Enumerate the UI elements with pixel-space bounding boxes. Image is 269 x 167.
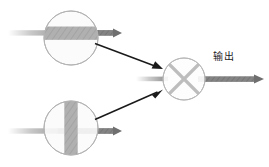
horizontal-polarizer bbox=[40, 11, 102, 65]
diagram-canvas: 输出 bbox=[0, 0, 269, 167]
bottom-to-combiner-link bbox=[95, 90, 163, 120]
vertical-polarizer bbox=[44, 97, 98, 159]
beam-combiner bbox=[163, 58, 205, 100]
top-to-combiner-link bbox=[95, 44, 163, 70]
output-beam bbox=[198, 75, 264, 84]
optical-schematic bbox=[0, 0, 269, 167]
output-label: 输出 bbox=[213, 52, 234, 62]
